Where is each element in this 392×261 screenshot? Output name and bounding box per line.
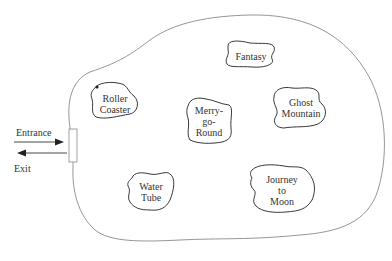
ride-label-ghost-mountain: Ghost Mountain bbox=[282, 97, 321, 119]
ride-label-journey-to-moon: Journey to Moon bbox=[266, 174, 298, 207]
park-boundary bbox=[69, 15, 385, 241]
entrance-arrow-icon bbox=[14, 139, 64, 146]
roller-coaster-marker-icon bbox=[95, 85, 98, 88]
exit-arrow-icon bbox=[17, 150, 67, 157]
ride-label-water-tube: Water Tube bbox=[139, 181, 163, 203]
gate bbox=[69, 129, 77, 162]
park-map: Entrance Exit Fantasy Roller Coaster Mer… bbox=[0, 0, 392, 261]
ride-label-roller-coaster: Roller Coaster bbox=[100, 93, 131, 115]
ride-label-merry-go-round: Merry- go- Round bbox=[195, 105, 223, 138]
ride-label-fantasy: Fantasy bbox=[235, 51, 266, 62]
entrance-label: Entrance bbox=[16, 127, 52, 138]
exit-label: Exit bbox=[14, 163, 31, 174]
